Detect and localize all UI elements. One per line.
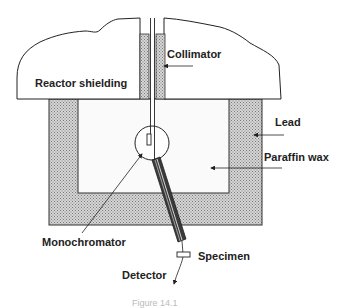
figure-caption: Figure 14.1	[132, 298, 178, 308]
label-collimator: Collimator	[167, 49, 221, 60]
monochromator-housing	[135, 126, 169, 160]
label-paraffin-wax: Paraffin wax	[264, 152, 329, 163]
incident-beam	[151, 18, 155, 128]
label-specimen: Specimen	[198, 251, 250, 262]
specimen-sample	[177, 252, 190, 257]
label-reactor-shielding: Reactor shielding	[35, 78, 127, 89]
monochromator-crystal	[147, 134, 151, 145]
collimator	[140, 34, 165, 99]
label-monochromator: Monochromator	[42, 237, 126, 248]
beam-to-detector	[174, 257, 183, 284]
label-lead: Lead	[275, 117, 301, 128]
label-detector: Detector	[122, 270, 167, 281]
